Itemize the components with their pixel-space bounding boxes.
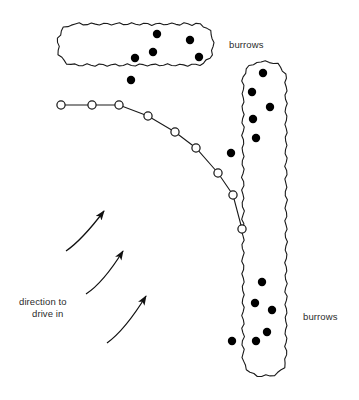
burrow-dot [258,278,266,286]
transect-open-marker [238,225,246,233]
transect-open-marker [144,112,152,120]
burrow-dot [127,76,135,84]
transect-layer [57,101,246,233]
direction-arrow [107,296,146,343]
burrow-dot [186,36,194,44]
label-burrows-bottom: burrows [303,311,338,323]
figure-canvas: burrowsburrowsdirection todrive in [0,0,359,400]
burrow-dot [149,48,157,56]
label-direction-line-2: drive in [32,308,63,320]
direction-arrow [86,251,123,294]
transect-open-marker [88,101,96,109]
burrow-dot [131,54,139,62]
burrow-dot [268,306,276,314]
direction-arrows-layer [66,211,146,343]
burrow-dot [249,115,257,123]
transect-open-marker [229,191,237,199]
diagram-svg [0,0,359,400]
direction-arrow [66,211,104,251]
burrow-dot [227,149,235,157]
burrow-dot [252,337,260,345]
burrow-dot [266,103,274,111]
transect-open-marker [171,128,179,136]
burrow-dot [153,30,161,38]
burrow-dot [251,299,259,307]
label-direction-line-1: direction to [19,296,67,308]
transect-open-marker [214,169,222,177]
burrow-dot [248,88,256,96]
transect-path [61,105,242,229]
burrow-patches-layer [57,23,287,377]
transect-open-marker [57,101,65,109]
burrow-dot [228,337,236,345]
label-burrows-top: burrows [229,39,264,51]
burrow-dot [263,328,271,336]
burrow-dot [259,69,267,77]
transect-open-marker [192,144,200,152]
transect-open-marker [115,101,123,109]
burrow-dot [195,53,203,61]
burrow-dot [252,134,260,142]
